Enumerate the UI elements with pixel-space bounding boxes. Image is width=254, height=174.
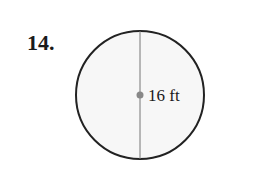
circle-diagram: 16 ft <box>0 0 254 174</box>
measure-label: 16 ft <box>148 86 180 105</box>
center-point <box>137 92 144 99</box>
